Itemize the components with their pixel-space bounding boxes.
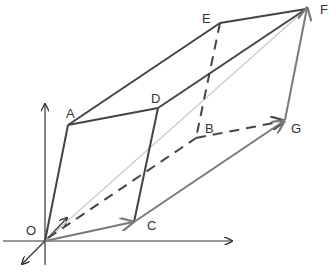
label-O: O	[26, 223, 36, 238]
edge-DF	[158, 9, 306, 108]
label-B: B	[205, 121, 214, 136]
z-axis	[22, 241, 45, 264]
edge-OC	[45, 222, 133, 241]
parallelepiped-diagram: O A D E F B G C	[0, 0, 333, 273]
edge-DC	[134, 108, 158, 222]
edge-CG	[134, 121, 284, 222]
label-D: D	[151, 91, 160, 106]
label-F: F	[320, 2, 328, 17]
edge-OB	[48, 138, 196, 238]
label-G: G	[291, 121, 301, 136]
label-A: A	[66, 106, 75, 121]
label-C: C	[147, 218, 156, 233]
label-E: E	[202, 11, 211, 26]
